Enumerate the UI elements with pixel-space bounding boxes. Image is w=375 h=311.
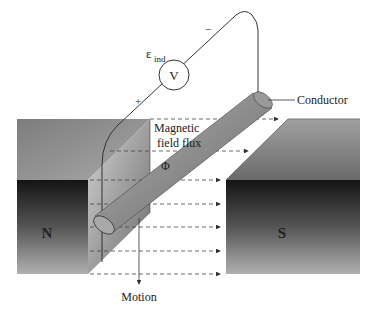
emf-subscript: ind	[154, 54, 166, 64]
induced-emf-diagram: V ε ind − + Conductor Magnetic field flu…	[0, 0, 375, 311]
flux-label-line1: Magnetic	[154, 121, 199, 135]
emf-symbol: ε	[146, 46, 152, 61]
north-pole-label: N	[42, 225, 53, 241]
flux-label-line2: field flux	[157, 136, 201, 150]
voltmeter: V	[159, 60, 189, 90]
plus-terminal: +	[135, 95, 141, 107]
conductor-label: Conductor	[297, 93, 348, 107]
north-magnet-front-face	[17, 180, 88, 274]
south-magnet-front-face	[226, 180, 360, 274]
minus-terminal: −	[205, 23, 211, 35]
voltmeter-label: V	[169, 68, 179, 83]
motion-label: Motion	[121, 290, 156, 304]
south-pole-label: S	[278, 225, 286, 241]
flux-symbol: Φ	[161, 159, 170, 173]
